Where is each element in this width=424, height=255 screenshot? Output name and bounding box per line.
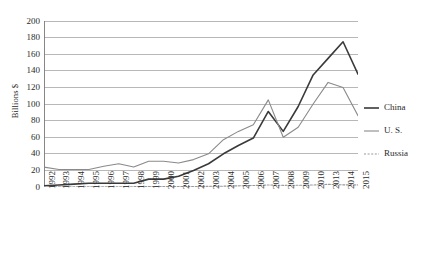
x-axis-tick-label: 1994 <box>77 171 86 189</box>
solid-line-swatch <box>364 127 379 135</box>
y-axis-tick-label: 140 <box>12 66 40 75</box>
y-axis-tick-label: 200 <box>12 17 40 26</box>
plot-svg <box>44 21 358 187</box>
plot-area <box>44 21 358 187</box>
x-axis-tick-label: 2014 <box>347 171 356 189</box>
legend-item-russia[interactable]: Russia <box>364 142 424 165</box>
y-axis-tick-label: 20 <box>12 166 40 175</box>
x-axis-tick-label: 2001 <box>182 171 191 189</box>
y-axis-tick-label: 80 <box>12 116 40 125</box>
x-axis-tick-label: 2003 <box>212 171 221 189</box>
x-axis-tick-label: 2000 <box>167 171 176 189</box>
x-axis-tick-label: 2008 <box>287 171 296 189</box>
x-axis-tick-label: 1997 <box>122 171 131 189</box>
x-axis-tick-label: 1993 <box>62 171 71 189</box>
series-line-china <box>44 42 358 186</box>
x-axis-tick-labels: 1992199319941995199619971998199920002001… <box>44 187 358 253</box>
line-chart: Billions $ 020406080100120140160180200 1… <box>0 0 424 255</box>
x-axis-tick-label: 1998 <box>137 171 146 189</box>
y-axis-tick-label: 100 <box>12 100 40 109</box>
y-axis-tick-label: 60 <box>12 133 40 142</box>
x-axis-tick-label: 2002 <box>197 171 206 189</box>
x-axis-tick-label: 2006 <box>257 171 266 189</box>
y-axis-tick-label: 0 <box>12 183 40 192</box>
y-axis-tick-label: 120 <box>12 83 40 92</box>
legend-item-u-s[interactable]: U. S. <box>364 119 424 142</box>
y-axis-tick-label: 180 <box>12 33 40 42</box>
y-axis-tick-label: 40 <box>12 149 40 158</box>
x-axis-tick-label: 2010 <box>317 171 326 189</box>
x-axis-tick-label: 1999 <box>152 171 161 189</box>
dashed-line-swatch <box>364 150 379 158</box>
x-axis-tick-label: 1992 <box>48 171 57 189</box>
legend-item-label: Russia <box>384 149 408 158</box>
x-axis-tick-label: 2005 <box>242 171 251 189</box>
series-line-u-s <box>44 82 358 169</box>
chart-legend: ChinaU. S.Russia <box>364 96 424 165</box>
x-axis-tick-label: 1996 <box>107 171 116 189</box>
x-axis-tick-label: 2009 <box>302 171 311 189</box>
solid-line-swatch <box>364 104 379 112</box>
legend-item-label: U. S. <box>384 126 402 135</box>
legend-item-china[interactable]: China <box>364 96 424 119</box>
x-axis-tick-label: 2013 <box>332 171 341 189</box>
x-axis-tick-label: 1995 <box>92 171 101 189</box>
y-axis-tick-labels: 020406080100120140160180200 <box>12 0 40 255</box>
x-axis-tick-label: 2015 <box>362 171 371 189</box>
legend-item-label: China <box>384 103 406 112</box>
y-axis-tick-label: 160 <box>12 50 40 59</box>
x-axis-tick-label: 2007 <box>272 171 281 189</box>
x-axis-tick-label: 2004 <box>227 171 236 189</box>
